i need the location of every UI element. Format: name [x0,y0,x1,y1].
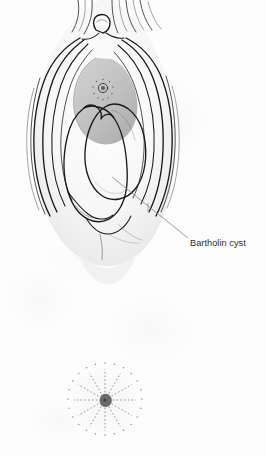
anatomy-illustration: Bartholin cyst [0,0,266,456]
illustration-canvas: Bartholin cyst [0,0,266,456]
anus [67,362,143,438]
label-bartholin-cyst: Bartholin cyst [190,238,246,248]
